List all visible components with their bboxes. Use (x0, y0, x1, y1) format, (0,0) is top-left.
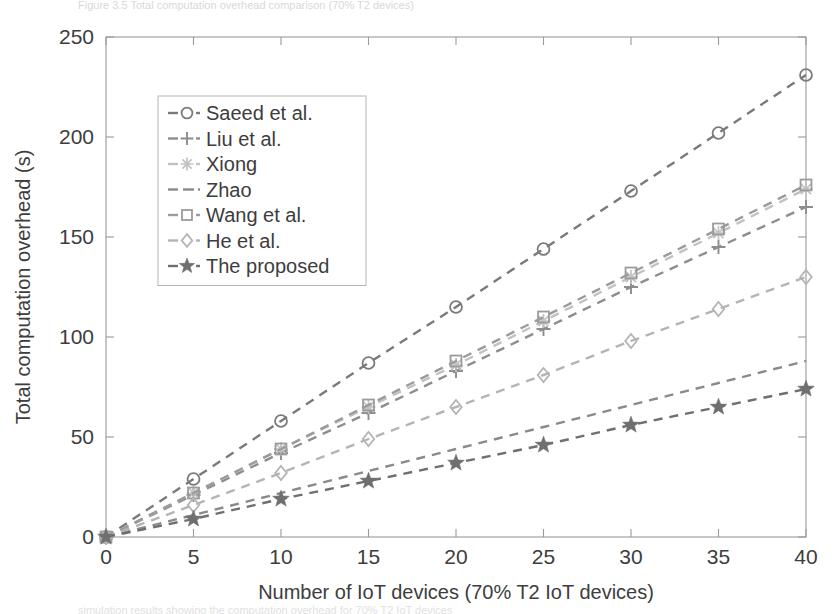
x-tick-label: 5 (188, 545, 200, 568)
series-marker (713, 127, 725, 139)
y-tick-label: 200 (59, 125, 94, 148)
y-axis-title: Total computation overhead (s) (12, 150, 34, 425)
x-tick-label: 20 (444, 545, 467, 568)
series-marker (710, 398, 727, 414)
chart-legend[interactable]: Saeed et al.Liu et al.XiongZhaoWang et a… (158, 96, 366, 286)
series-marker (363, 357, 375, 369)
legend-label: Liu et al. (206, 128, 282, 150)
figure-root: Figure 3.5 Total computation overhead co… (0, 0, 834, 614)
series-marker (712, 240, 726, 254)
series-line (106, 361, 806, 537)
y-tick-label: 150 (59, 225, 94, 248)
legend-label: Saeed et al. (206, 102, 313, 124)
x-tick-label: 30 (619, 545, 642, 568)
y-tick-label: 250 (59, 25, 94, 48)
series-marker (275, 466, 286, 480)
legend-marker (181, 158, 194, 171)
series-the-proposed (98, 380, 815, 544)
series-marker (360, 472, 377, 488)
series-he-et-al (100, 270, 811, 544)
x-tick-label: 25 (532, 545, 555, 568)
series-zhao (106, 361, 806, 537)
series-marker (713, 302, 724, 316)
legend-label: Wang et al. (206, 204, 306, 226)
y-tick-label: 0 (82, 525, 94, 548)
chart-canvas: Saeed et al.Liu et al.XiongZhaoWang et a… (0, 0, 834, 614)
series-line (106, 277, 806, 537)
chart-axis-labels: 0510152025303540050100150200250Number of… (12, 25, 818, 603)
x-axis-title: Number of IoT devices (70% T2 IoT device… (258, 581, 654, 603)
x-tick-label: 35 (707, 545, 730, 568)
legend-label: Zhao (206, 179, 252, 201)
series-marker (799, 200, 813, 214)
x-tick-label: 15 (357, 545, 380, 568)
x-tick-label: 0 (100, 545, 112, 568)
x-tick-label: 40 (794, 545, 817, 568)
series-marker (538, 243, 550, 255)
legend-label: Xiong (206, 153, 257, 175)
x-tick-label: 10 (269, 545, 292, 568)
legend-label: The proposed (206, 255, 329, 277)
series-marker (535, 436, 552, 452)
y-tick-label: 50 (71, 425, 94, 448)
series-marker (623, 416, 640, 432)
legend-label: He et al. (206, 230, 280, 252)
series-marker (448, 454, 465, 470)
series-marker (273, 490, 290, 506)
y-tick-label: 100 (59, 325, 94, 348)
